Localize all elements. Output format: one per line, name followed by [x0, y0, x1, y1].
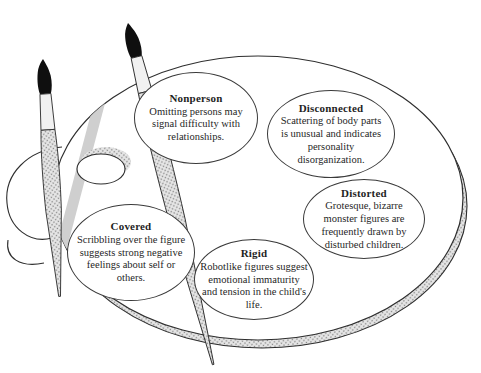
- brush-bristle: [36, 59, 52, 95]
- brush-ferrule: [38, 93, 54, 130]
- node-description: Omitting persons may signal difficulty w…: [144, 106, 248, 144]
- node-distorted: Distorted Grotesque, bizarre monster fig…: [303, 179, 425, 259]
- figure-canvas: Nonperson Omitting persons may signal di…: [0, 0, 481, 373]
- node-title: Disconnected: [299, 102, 364, 116]
- node-covered: Covered Scribbling over the figure sugge…: [67, 204, 195, 301]
- node-description: Scribbling over the figure suggests stro…: [74, 234, 188, 285]
- brush-bristle: [121, 21, 143, 58]
- node-title: Distorted: [341, 187, 387, 201]
- node-description: Grotesque, bizarre monster figures are f…: [311, 200, 417, 251]
- node-disconnected: Disconnected Scattering of body parts is…: [267, 90, 395, 178]
- node-title: Rigid: [241, 247, 268, 261]
- node-title: Nonperson: [169, 92, 222, 106]
- node-description: Scattering of body parts is unusual and …: [277, 115, 385, 166]
- node-title: Covered: [111, 220, 152, 234]
- node-rigid: Rigid Robotlike figures suggest emotiona…: [194, 239, 314, 320]
- node-nonperson: Nonperson Omitting persons may signal di…: [134, 72, 258, 164]
- thumb-hole: [77, 154, 125, 184]
- node-description: Robotlike figures suggest emotional imma…: [200, 261, 308, 312]
